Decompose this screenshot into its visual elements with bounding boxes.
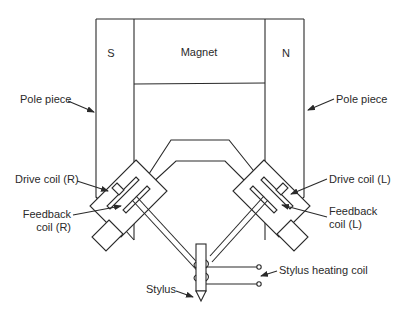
feedback-coil-l-label-2: coil (L) [329, 218, 362, 230]
coil-housing-left [210, 160, 310, 262]
north-pole-label: N [282, 47, 290, 59]
south-pole-label: S [107, 47, 114, 59]
drive-coil-l-label: Drive coil (L) [329, 173, 391, 185]
magnet-label: Magnet [181, 46, 218, 58]
feedback-coil-r-label-1: Feedback [23, 208, 72, 220]
magnet-block-bottom [134, 83, 265, 84]
pole-piece-left-label: Pole piece [20, 93, 71, 105]
pole-piece-right-label: Pole piece [336, 93, 387, 105]
stylus [194, 244, 261, 301]
feedback-coil-r-label-2: coil (R) [36, 221, 71, 233]
drive-coil-r-label: Drive coil (R) [15, 173, 79, 185]
cutting-head-diagram: S N Magnet Pole piece Pole piece Drive c… [0, 0, 397, 309]
feedback-coil-l-label-1: Feedback [329, 205, 378, 217]
coil-housing-right [90, 160, 206, 278]
stylus-label: Stylus [146, 283, 176, 295]
stylus-heating-coil-label: Stylus heating coil [279, 264, 368, 276]
